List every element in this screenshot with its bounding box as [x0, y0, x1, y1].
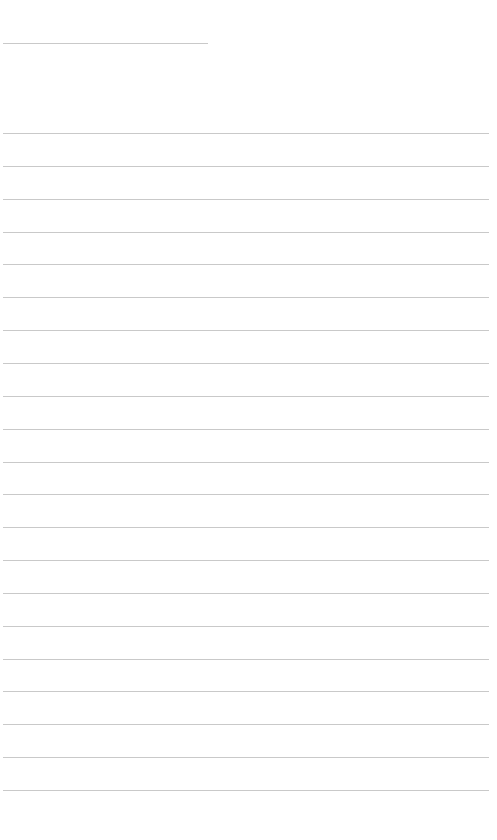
ruled-line [3, 462, 489, 463]
ruled-line [3, 494, 489, 495]
ruled-line [3, 659, 489, 660]
ruled-line [3, 429, 489, 430]
ruled-line [3, 199, 489, 200]
ruled-line [3, 527, 489, 528]
ruled-line [3, 330, 489, 331]
ruled-line [3, 626, 489, 627]
ruled-line [3, 232, 489, 233]
ruled-line [3, 297, 489, 298]
ruled-line [3, 757, 489, 758]
ruled-line [3, 790, 489, 791]
ruled-line [3, 363, 489, 364]
ruled-line [3, 166, 489, 167]
ruled-line [3, 593, 489, 594]
ruled-line [3, 691, 489, 692]
ruled-line [3, 560, 489, 561]
ruled-line [3, 133, 489, 134]
header-rule-line [3, 43, 208, 44]
ruled-line [3, 264, 489, 265]
ruled-line [3, 724, 489, 725]
lined-page [0, 0, 497, 840]
ruled-line [3, 396, 489, 397]
